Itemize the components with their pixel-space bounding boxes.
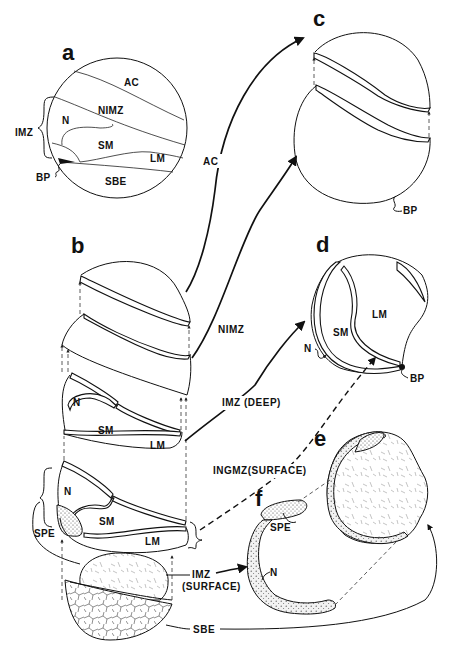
panel-a-n: N [62, 115, 70, 126]
panel-f: f SPE N [247, 486, 335, 614]
arrow-imz-surface-label-2: (SURFACE) [182, 581, 241, 592]
panel-a-bp: BP [36, 172, 51, 183]
n-lower-boundary [52, 143, 80, 162]
panel-a-sbe: SBE [105, 176, 126, 187]
panel-b-surface-bottom [84, 527, 186, 539]
panel-d-bp-pointer [401, 370, 408, 378]
panel-a-sm: SM [98, 140, 114, 151]
panel-b-right-bracket [188, 522, 202, 549]
panel-c-lower-cleft [316, 85, 430, 142]
imz-bracket [38, 97, 54, 158]
panel-b-upper-lm: LM [150, 440, 165, 451]
panel-a-imz: IMZ [15, 127, 33, 138]
panel-d: d BP LM SM N [304, 232, 428, 384]
panel-b-nimz-right [187, 355, 191, 395]
panel-b-label: b [71, 233, 84, 258]
arrows: AC NIMZ IMZ (DEEP) INGMZ(SURFACE) IMZ (S… [166, 38, 437, 635]
panel-b-lower-lm: LM [145, 536, 160, 547]
panel-d-upper-right-cleft [397, 262, 425, 302]
embryo-explant-diagram: a AC NIMZ N SM LM SBE IMZ BP c BP b [0, 0, 452, 648]
panel-d-blastopore [399, 364, 405, 370]
panel-d-sm-lm-boundary [341, 266, 400, 366]
panel-b-surface-bracket [40, 468, 52, 527]
lm-boundary-top [80, 152, 183, 162]
panel-b-surface-lm-cleft [111, 496, 186, 525]
panel-c: c BP [294, 6, 430, 216]
arrow-imz-deep-label: IMZ (DEEP) [222, 397, 281, 408]
panel-b-ac-cap [81, 261, 190, 322]
bp-pointer [55, 164, 60, 177]
arrow-nimz-label: NIMZ [218, 324, 244, 335]
arrow-ac-label: AC [203, 156, 218, 167]
panel-b-spe: SPE [34, 528, 55, 539]
f-to-e-dash-top [298, 480, 330, 502]
panel-b-nimz-left [62, 314, 84, 345]
panel-b-upper-n: N [73, 397, 81, 408]
panel-f-spe [261, 500, 307, 520]
panel-d-n: N [304, 343, 312, 354]
panel-b-imz-bottom [64, 430, 181, 436]
panel-f-n-label: N [270, 567, 278, 578]
panel-b-upper-sm: SM [98, 425, 114, 436]
panel-c-lower-outline [294, 86, 430, 203]
panel-d-lm: LM [372, 309, 387, 320]
panel-f-body [247, 520, 335, 614]
panel-a: a AC NIMZ N SM LM SBE IMZ BP [15, 40, 187, 198]
panel-e-label: e [314, 426, 326, 451]
panel-c-label: c [313, 6, 325, 31]
arrow-imz-surface [216, 567, 246, 573]
panel-b-lower-n: N [64, 486, 72, 497]
panel-b-lm-cleft [116, 404, 180, 434]
panel-c-upper-cleft [314, 53, 430, 112]
panel-e: e [314, 426, 428, 544]
panel-d-bp: BP [410, 373, 425, 384]
panel-a-lm: LM [150, 153, 165, 164]
panel-a-ac: AC [124, 77, 139, 88]
panel-f-spe-label: SPE [270, 522, 291, 533]
arrow-imz-surface-label-1: IMZ [192, 569, 211, 580]
arrow-ingmz-label: INGMZ(SURFACE) [213, 465, 307, 476]
sbe-leader [166, 625, 190, 629]
panel-b-lower-sm: SM [99, 516, 115, 527]
panel-a-label: a [62, 40, 75, 65]
panel-d-n-band [314, 262, 402, 374]
f-to-e-dash-bottom [335, 540, 398, 605]
panel-a-nimz: NIMZ [98, 105, 124, 116]
panel-d-label: d [316, 232, 329, 257]
panel-c-bp-pointer [394, 196, 402, 211]
arrow-sbe-label: SBE [193, 624, 215, 635]
panel-b: b N SM LM N SM LM SPE [33, 233, 202, 640]
panel-d-sm: SM [333, 327, 349, 338]
panel-c-bp: BP [403, 205, 418, 216]
